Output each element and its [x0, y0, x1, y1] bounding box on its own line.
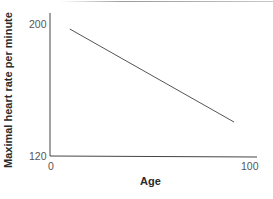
y-tick-200: 200 [29, 18, 47, 30]
y-tick-120: 120 [29, 150, 47, 162]
data-line [70, 29, 234, 122]
x-axis-label: Age [140, 175, 161, 187]
y-axis-label: Maximal heart rate per minute [2, 12, 14, 168]
x-tick-100: 100 [241, 160, 259, 172]
x-tick-0: 0 [48, 160, 54, 172]
x-axis [50, 156, 257, 157]
